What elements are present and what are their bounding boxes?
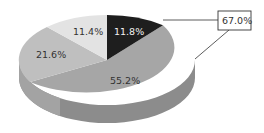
callout-leader-bottom — [195, 30, 229, 59]
slice-label-11-4: 11.4% — [73, 26, 103, 37]
slice-label-21-6: 21.6% — [36, 49, 66, 60]
slice-label-55-2: 55.2% — [110, 75, 140, 86]
pie-chart: 11.8% 55.2% 21.6% 11.4% 67.0% — [0, 0, 264, 133]
callout-label: 67.0% — [222, 15, 252, 26]
slice-label-11-8: 11.8% — [114, 26, 144, 37]
